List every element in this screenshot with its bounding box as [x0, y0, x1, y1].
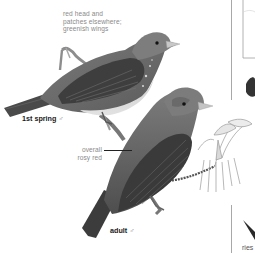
- field-guide-plate: red head and patches elsewhere; greenish…: [0, 0, 255, 253]
- annotation-line: greenish wings: [63, 25, 122, 33]
- male-symbol-icon: ♂: [58, 114, 63, 123]
- caption-first-spring: 1st spring♂: [22, 114, 64, 123]
- annotation-line: patches elsewhere;: [63, 18, 122, 26]
- annotation-line: overall: [72, 146, 102, 154]
- catkin-cluster: [198, 119, 252, 192]
- caption-label: 1st spring: [22, 114, 56, 123]
- panel-divider-lower: [231, 205, 232, 253]
- annotation-adult: overall rosy red: [72, 146, 102, 161]
- right-panel-cut-text: ries: [242, 244, 253, 251]
- annotation-first-spring: red head and patches elsewhere; greenish…: [63, 10, 122, 33]
- panel-divider-upper: [231, 0, 232, 100]
- male-symbol-icon: ♂: [129, 226, 134, 235]
- annotation-line: red head and: [63, 10, 122, 18]
- bird-illustration: [0, 0, 255, 253]
- annotation-line: rosy red: [72, 154, 102, 162]
- annotation-leader-line: [104, 150, 132, 151]
- caption-adult: adult♂: [110, 226, 135, 235]
- caption-label: adult: [110, 226, 127, 235]
